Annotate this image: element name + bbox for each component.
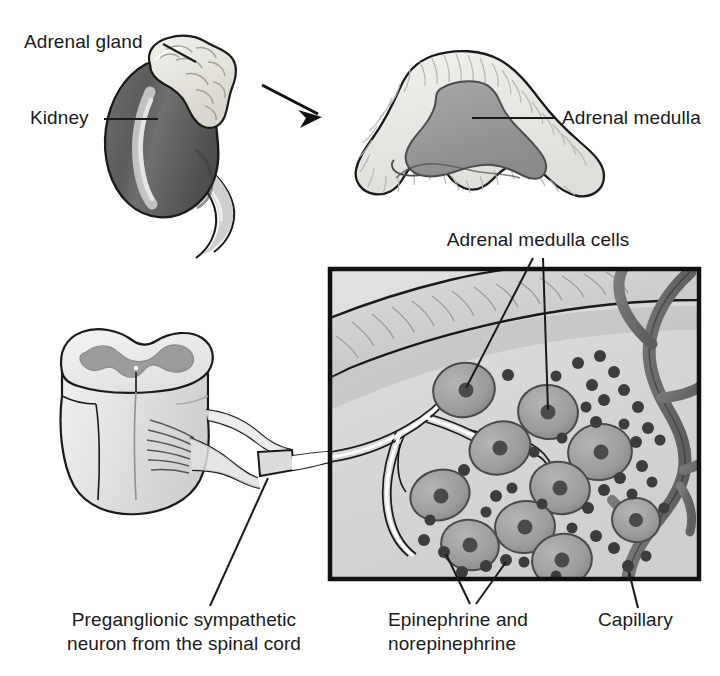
label-capillary: Capillary bbox=[598, 608, 673, 631]
label-kidney: Kidney bbox=[30, 106, 89, 129]
diagram-artwork bbox=[0, 0, 720, 676]
label-adrenal-gland: Adrenal gland bbox=[24, 30, 143, 53]
label-adrenal-medulla-cells: Adrenal medulla cells bbox=[396, 228, 680, 251]
medulla-inset bbox=[330, 262, 714, 591]
label-preganglionic-neuron-line2: neuron from the spinal cord bbox=[36, 632, 332, 655]
label-preganglionic-neuron-line1: Preganglionic sympathetic bbox=[36, 608, 332, 631]
label-epinephrine-line2: norepinephrine bbox=[388, 632, 516, 655]
transition-arrow bbox=[262, 85, 322, 128]
label-epinephrine-line1: Epinephrine and bbox=[388, 608, 528, 631]
leader-preganglionic-neuron bbox=[210, 478, 268, 606]
label-adrenal-medulla: Adrenal medulla bbox=[562, 106, 701, 129]
preganglionic-fiber-outside bbox=[292, 452, 330, 470]
kidney-with-adrenal-gland bbox=[105, 36, 236, 258]
spinal-cord-segment bbox=[61, 329, 295, 514]
figure-root: Adrenal gland Kidney Adrenal medulla Adr… bbox=[0, 0, 720, 676]
